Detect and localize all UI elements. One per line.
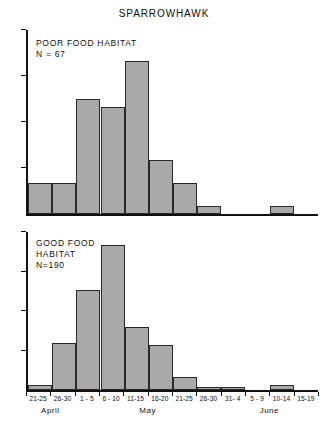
panel-poor-food-habitat: POOR FOOD HABITATN = 67 bbox=[26, 30, 318, 216]
bar-good-3 bbox=[101, 245, 125, 390]
xlabel-11: 15-19 bbox=[297, 395, 314, 402]
xlabel-10: 10-14 bbox=[273, 395, 290, 402]
ytick-poor-18 bbox=[21, 75, 26, 76]
xlabel-6: 21-25 bbox=[175, 395, 192, 402]
chart-figure: SPARROWHAWK POOR FOOD HABITATN = 67 GOOD… bbox=[0, 0, 328, 422]
bar-poor-3 bbox=[101, 107, 125, 214]
xlabel-1: 26-30 bbox=[54, 395, 71, 402]
bar-good-2 bbox=[76, 290, 100, 390]
xtick-5 bbox=[148, 392, 149, 396]
xtick-6 bbox=[172, 392, 173, 396]
xlabel-5: 16-20 bbox=[151, 395, 168, 402]
panel-poor-title: POOR FOOD HABITAT bbox=[36, 38, 137, 48]
xtick-12 bbox=[318, 392, 319, 396]
xtick-0 bbox=[26, 392, 27, 396]
x-axis-labels: 21-2526-301 - 56 - 1011-1516-2021-2526-3… bbox=[26, 392, 318, 422]
bar-poor-1 bbox=[52, 183, 76, 214]
panel-good-label: GOOD FOODHABITATN=190 bbox=[36, 238, 95, 271]
bar-good-6 bbox=[173, 377, 197, 390]
xtick-10 bbox=[269, 392, 270, 396]
month-label-june: June bbox=[260, 406, 279, 415]
bar-good-10 bbox=[270, 385, 294, 390]
bar-poor-2 bbox=[76, 99, 100, 214]
xtick-1 bbox=[50, 392, 51, 396]
bar-poor-5 bbox=[149, 160, 173, 214]
panel-good-sample-size: N=190 bbox=[36, 260, 65, 270]
xlabel-2: 1 - 5 bbox=[80, 395, 94, 402]
xtick-4 bbox=[123, 392, 124, 396]
ytick-good-15 bbox=[21, 350, 26, 351]
panel-poor-sample-size: N = 67 bbox=[36, 49, 65, 59]
bar-poor-0 bbox=[28, 183, 52, 214]
xtick-9 bbox=[245, 392, 246, 396]
xtick-2 bbox=[75, 392, 76, 396]
xlabel-9: 5 - 9 bbox=[250, 395, 264, 402]
panel-good-food-habitat: GOOD FOODHABITATN=190 bbox=[26, 232, 318, 392]
ytick-poor-12 bbox=[21, 121, 26, 122]
xlabel-8: 31- 4 bbox=[225, 395, 241, 402]
xlabel-4: 11-15 bbox=[127, 395, 144, 402]
bar-good-4 bbox=[125, 327, 149, 390]
panel-poor-label: POOR FOOD HABITATN = 67 bbox=[36, 38, 137, 60]
bar-poor-6 bbox=[173, 183, 197, 214]
ytick-good-45 bbox=[21, 271, 26, 272]
bar-good-5 bbox=[149, 345, 173, 390]
ytick-good-30 bbox=[21, 310, 26, 311]
bar-good-7 bbox=[197, 387, 221, 390]
xlabel-3: 6 - 10 bbox=[102, 395, 119, 402]
month-label-april: April bbox=[41, 406, 60, 415]
bar-poor-7 bbox=[197, 206, 221, 214]
bar-poor-10 bbox=[270, 206, 294, 214]
panel-good-title: GOOD FOODHABITAT bbox=[36, 238, 95, 259]
xlabel-7: 26-30 bbox=[200, 395, 217, 402]
xtick-7 bbox=[196, 392, 197, 396]
chart-title: SPARROWHAWK bbox=[0, 8, 328, 19]
panel-poor-x-axis bbox=[26, 214, 318, 216]
xlabel-0: 21-25 bbox=[29, 395, 46, 402]
xtick-3 bbox=[99, 392, 100, 396]
xtick-11 bbox=[294, 392, 295, 396]
bar-good-1 bbox=[52, 343, 76, 390]
bar-good-0 bbox=[28, 385, 52, 390]
ytick-poor-24 bbox=[21, 29, 26, 30]
bar-poor-4 bbox=[125, 61, 149, 214]
bar-good-8 bbox=[221, 387, 245, 390]
month-label-may: May bbox=[139, 406, 156, 415]
ytick-poor-6 bbox=[21, 167, 26, 168]
ytick-good-60 bbox=[21, 231, 26, 232]
xtick-8 bbox=[221, 392, 222, 396]
